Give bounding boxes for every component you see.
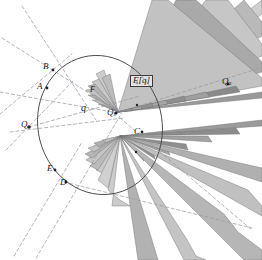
label-text: C bbox=[134, 126, 140, 136]
label-text: A bbox=[37, 81, 43, 91]
point-C bbox=[141, 131, 144, 134]
label-text: Q bbox=[21, 119, 28, 129]
label-text: B bbox=[43, 61, 49, 71]
label-subscript: a bbox=[229, 80, 232, 86]
label-c: C bbox=[134, 127, 140, 136]
point-E bbox=[54, 169, 57, 172]
point-inner-2 bbox=[135, 151, 137, 153]
point-inner-1 bbox=[136, 104, 138, 106]
point-B bbox=[52, 69, 55, 72]
point-A bbox=[46, 87, 49, 90]
label-q: q bbox=[81, 103, 86, 113]
label-f: F bbox=[90, 86, 95, 94]
lower-spike-fan bbox=[85, 120, 262, 260]
label-b: B bbox=[43, 62, 49, 71]
label-text: E bbox=[47, 163, 53, 173]
label-qs: Qs bbox=[107, 108, 116, 118]
label-text: F[q] bbox=[133, 75, 150, 85]
label-a: A bbox=[37, 82, 43, 91]
label-text: D bbox=[60, 177, 67, 187]
dashed-line bbox=[0, 54, 72, 114]
label-subscript: s bbox=[114, 111, 116, 117]
label-qa: Qa bbox=[222, 77, 231, 87]
label-fq: F[q] bbox=[130, 75, 153, 87]
label-e: E bbox=[47, 164, 53, 173]
label-text: q bbox=[81, 102, 86, 113]
dashed-line bbox=[14, 142, 82, 256]
label-q: Q bbox=[21, 120, 28, 129]
label-text: F bbox=[90, 85, 95, 94]
label-d: D bbox=[60, 178, 67, 187]
geometry-svg bbox=[0, 0, 262, 260]
figure-canvas: BAFF[q]qQsQaQCED bbox=[0, 0, 262, 260]
